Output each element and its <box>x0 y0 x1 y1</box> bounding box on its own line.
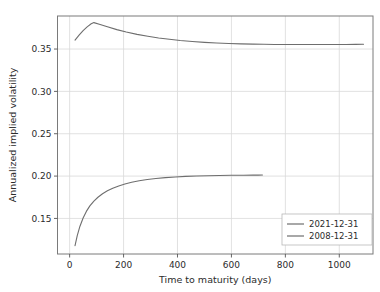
x-tick-label: 600 <box>223 260 240 270</box>
x-axis-label: Time to maturity (days) <box>158 274 271 285</box>
x-tick-label: 400 <box>169 260 186 270</box>
y-axis-label: Annualized implied volatility <box>7 67 18 202</box>
x-tick-label: 200 <box>115 260 132 270</box>
x-tick-label: 0 <box>67 260 73 270</box>
legend: 2021-12-312008-12-31 <box>282 214 372 245</box>
chart-svg: 02004006008001000Time to maturity (days)… <box>0 0 380 292</box>
y-tick-label: 0.25 <box>31 129 51 139</box>
legend-label-2021-12-31: 2021-12-31 <box>309 219 358 229</box>
chart-figure: 02004006008001000Time to maturity (days)… <box>0 0 380 292</box>
y-tick-label: 0.15 <box>31 214 51 224</box>
y-tick-label: 0.35 <box>31 44 51 54</box>
y-tick-label: 0.30 <box>31 87 51 97</box>
legend-label-2008-12-31: 2008-12-31 <box>309 231 358 241</box>
x-tick-label: 800 <box>277 260 294 270</box>
x-tick-label: 1000 <box>328 260 351 270</box>
y-tick-label: 0.20 <box>31 171 51 181</box>
